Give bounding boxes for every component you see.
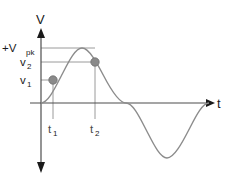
label-t2-sub: 2 [95,129,100,138]
label-vpk: +V pk [2,42,35,57]
label-v1-sub: 1 [27,80,32,89]
v-axis-arrow-down-icon [37,162,45,173]
label-t1-base: t [48,123,52,135]
figure-canvas: V t +V pk v 2 v 1 t 1 t 2 [0,0,231,180]
label-v1: v 1 [20,74,32,89]
label-v2-base: v [20,56,26,68]
label-v1-base: v [20,74,26,86]
v-axis-label: V [36,12,45,27]
label-t2: t 2 [90,123,100,138]
label-t2-base: t [90,123,94,135]
label-vpk-sub: pk [26,48,35,57]
data-point-marker-v1-t1 [49,76,57,84]
label-t1-sub: 1 [53,129,58,138]
v-axis-arrow-up-icon [37,28,45,38]
label-v2-sub: 2 [27,62,32,71]
sine-waveform-diagram: V t +V pk v 2 v 1 t 1 t 2 [0,0,231,180]
label-vpk-base: +V [2,42,17,54]
label-t1: t 1 [48,123,58,138]
data-point-marker-v2-t2 [91,58,99,66]
t-axis-label: t [217,96,221,111]
label-v2: v 2 [20,56,32,71]
